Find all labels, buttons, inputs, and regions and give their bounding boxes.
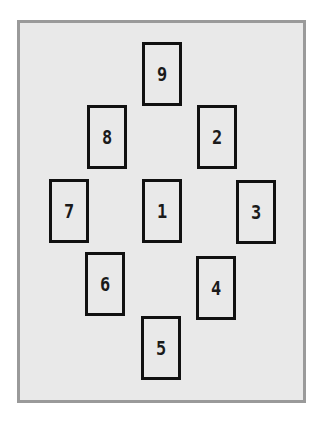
- card-position-6: 6: [85, 252, 125, 316]
- card-position-8: 8: [87, 105, 127, 169]
- card-number: 5: [156, 338, 166, 358]
- card-position-7: 7: [49, 179, 89, 243]
- card-position-3: 3: [236, 180, 276, 244]
- card-position-1: 1: [142, 179, 182, 243]
- card-number: 9: [157, 64, 167, 84]
- card-number: 4: [211, 278, 221, 298]
- card-number: 6: [100, 274, 110, 294]
- card-number: 3: [251, 202, 261, 222]
- card-position-5: 5: [141, 316, 181, 380]
- card-number: 8: [102, 127, 112, 147]
- card-position-4: 4: [196, 256, 236, 320]
- card-number: 1: [157, 201, 167, 221]
- card-position-9: 9: [142, 42, 182, 106]
- card-number: 7: [64, 201, 74, 221]
- card-number: 2: [212, 127, 222, 147]
- card-position-2: 2: [197, 105, 237, 169]
